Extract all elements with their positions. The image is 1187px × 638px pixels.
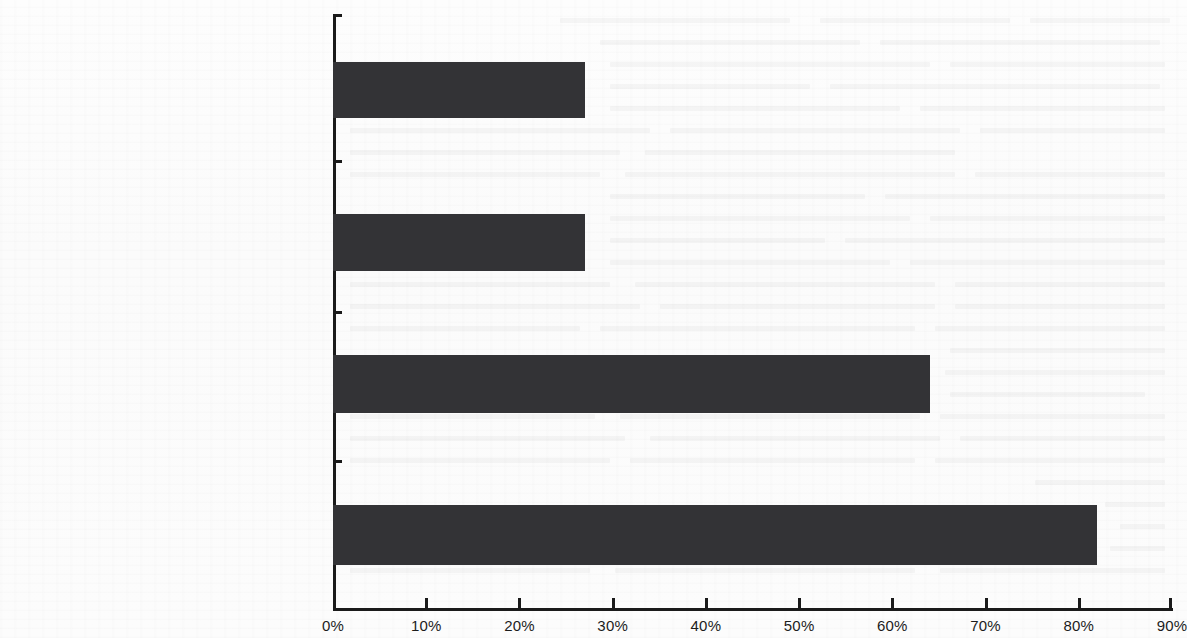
x-axis-tick-label-2: 20% — [504, 617, 535, 634]
x-axis-tick-label-0: 0% — [322, 617, 344, 634]
x-axis-tick-label-8: 80% — [1063, 617, 1094, 634]
x-axis-tick-label-9: 90% — [1157, 617, 1187, 634]
x-axis-tick-label-1: 10% — [411, 617, 442, 634]
bar-marginalises — [333, 214, 585, 271]
x-axis-tick-label-6: 60% — [877, 617, 908, 634]
bar-illettrisme — [333, 62, 585, 118]
x-axis-tick-label-3: 30% — [597, 617, 628, 634]
x-axis-tick-label-7: 70% — [970, 617, 1001, 634]
plot-area — [333, 14, 1172, 610]
x-axis-tick-label-4: 40% — [691, 617, 722, 634]
bar-femmes — [333, 355, 930, 413]
x-axis-tick-label-5: 50% — [784, 617, 815, 634]
bar-jeunes — [333, 505, 1097, 565]
